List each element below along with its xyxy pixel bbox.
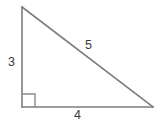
right-triangle-figure: 3 5 4: [0, 0, 163, 124]
horizontal-leg-label: 4: [74, 109, 81, 122]
right-angle-marker-icon: [22, 94, 35, 107]
vertical-leg-label: 3: [8, 56, 15, 69]
hypotenuse-line: [22, 7, 153, 107]
hypotenuse-label: 5: [85, 39, 92, 52]
triangle-drawing: [0, 0, 163, 124]
